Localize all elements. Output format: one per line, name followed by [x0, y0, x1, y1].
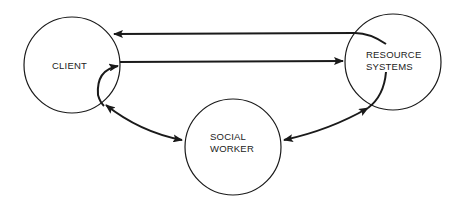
- diagram-canvas: [0, 0, 466, 203]
- edge-social-worker-to-resource: [284, 108, 368, 140]
- social-worker-label: SOCIAL WORKER: [210, 131, 254, 155]
- client-label-line-1: CLIENT: [52, 60, 87, 71]
- resource-label-line-1: RESOURCE: [366, 49, 421, 61]
- social-worker-label-line-1: SOCIAL: [210, 131, 254, 143]
- client-label: CLIENT: [52, 60, 87, 72]
- edge-client-to-resource: [120, 61, 343, 62]
- social-worker-label-line-2: WORKER: [210, 143, 254, 155]
- edge-social-worker-to-client: [106, 105, 182, 140]
- edge-resource-curl: [368, 72, 386, 108]
- edge-resource-to-client: [114, 33, 386, 44]
- resource-label-line-2: SYSTEMS: [366, 61, 421, 73]
- resource-systems-label: RESOURCE SYSTEMS: [366, 49, 421, 73]
